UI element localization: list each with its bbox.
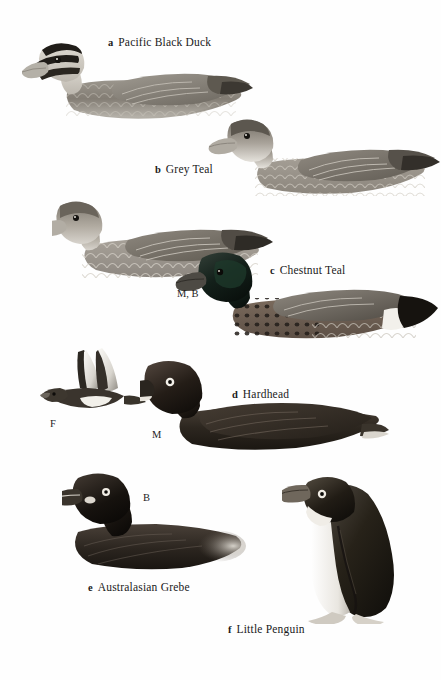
species-key-b: b [155,164,161,175]
annotation-hardhead-male: M [152,430,161,441]
species-name-a: Pacific Black Duck [113,36,211,48]
species-label-f: fLittle Penguin [228,620,305,636]
species-name-d: Hardhead [238,388,289,400]
species-name-b: Grey Teal [161,163,213,175]
illustration-plate: aPacific Black Duck bGrey Teal cChestnut… [0,0,441,680]
species-key-c: c [270,265,275,276]
annotation-chestnut-teal-male-breeding: M, B [177,289,199,300]
annotation-hardhead-female: F [50,419,56,430]
annotation-grebe-breeding: B [143,493,150,504]
illustration-little-penguin [282,474,404,624]
species-key-d: d [232,389,238,400]
species-label-d: dHardhead [232,385,289,401]
illustration-hardhead-female-flight [40,348,148,420]
species-key-f: f [228,624,232,635]
species-label-c: cChestnut Teal [270,261,345,277]
illustration-australasian-grebe [62,472,248,574]
illustration-grey-teal [205,116,441,198]
species-name-f: Little Penguin [232,623,305,635]
species-key-e: e [88,582,93,593]
species-label-a: aPacific Black Duck [108,33,211,49]
species-label-e: eAustralasian Grebe [88,578,190,594]
species-name-c: Chestnut Teal [275,264,346,276]
species-name-e: Australasian Grebe [93,581,190,593]
illustration-hardhead-male [140,358,390,450]
species-label-b: bGrey Teal [155,160,213,176]
